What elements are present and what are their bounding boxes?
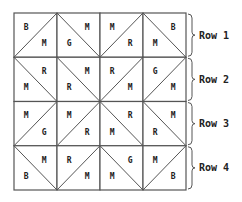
grid-cell: BM [143, 13, 186, 57]
triangle-label: R [67, 156, 72, 165]
grid-cell: MB [143, 146, 186, 190]
triangle-label: G [128, 156, 133, 165]
grid-cell: RM [14, 57, 57, 101]
triangle-label: M [42, 156, 47, 165]
grid-cell: RM [57, 146, 100, 190]
triangle-label: R [110, 67, 115, 76]
triangle-label: R [128, 39, 133, 48]
grid-cell: MR [57, 102, 100, 146]
triangle-label: R [67, 83, 72, 92]
row-label: Row 2 [199, 74, 229, 85]
grid-cell: MR [143, 102, 186, 146]
triangle-label: G [153, 67, 158, 76]
triangle-label: R [128, 111, 133, 120]
triangle-label: M [24, 83, 29, 92]
triangle-label: G [67, 39, 72, 48]
row-label: Row 4 [199, 162, 229, 173]
quilt-grid-diagram: BMMGMRBMRMMRRMGMMGMRRMMRMBRMGMMB Row 1Ro… [0, 0, 242, 202]
triangle-label: B [24, 23, 29, 32]
grid-cell: GM [100, 146, 143, 190]
row-bracket [188, 58, 195, 100]
triangle-label: M [24, 111, 29, 120]
triangle-label: M [42, 39, 47, 48]
triangle-label: M [171, 111, 176, 120]
triangle-label: M [128, 83, 133, 92]
row-bracket [188, 147, 195, 189]
triangle-label: M [67, 111, 72, 120]
row-bracket [188, 103, 195, 145]
triangle-label: M [153, 39, 158, 48]
triangle-label: M [171, 83, 176, 92]
triangle-label: M [153, 156, 158, 165]
triangle-label: R [42, 67, 47, 76]
grid-cell: MG [14, 102, 57, 146]
grid-cell: BM [14, 13, 57, 57]
grid-cell: MR [100, 13, 143, 57]
grid-cell: GM [143, 57, 186, 101]
grid-cell: MR [57, 57, 100, 101]
triangle-label: M [85, 67, 90, 76]
row-label: Row 1 [199, 30, 229, 41]
triangle-label: M [110, 172, 115, 181]
grid-cell: RM [100, 57, 143, 101]
triangle-label: B [171, 172, 176, 181]
triangle-label: G [42, 128, 47, 137]
row-label: Row 3 [199, 118, 229, 129]
triangle-label: M [110, 128, 115, 137]
triangle-label: M [85, 23, 90, 32]
grid-cell: RM [100, 102, 143, 146]
row-bracket [188, 14, 195, 56]
triangle-label: B [24, 172, 29, 181]
triangle-label: B [171, 23, 176, 32]
triangle-label: R [85, 128, 90, 137]
triangle-label: R [153, 128, 158, 137]
grid-cell: MB [14, 146, 57, 190]
grid-cell: MG [57, 13, 100, 57]
triangle-label: M [85, 172, 90, 181]
triangle-label: M [110, 23, 115, 32]
